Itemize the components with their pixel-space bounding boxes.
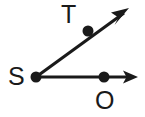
ray-st-arrowhead [111,8,129,25]
point-s-dot [31,72,42,83]
ray-st-line [36,13,124,77]
point-s-label: S [8,64,25,89]
point-t-label: T [61,2,76,27]
ray-so [36,71,138,84]
point-t-dot [83,26,94,37]
angle-diagram: S T O [0,0,145,117]
point-o-label: O [95,88,114,113]
ray-st [36,8,129,77]
point-o-dot [99,72,110,83]
